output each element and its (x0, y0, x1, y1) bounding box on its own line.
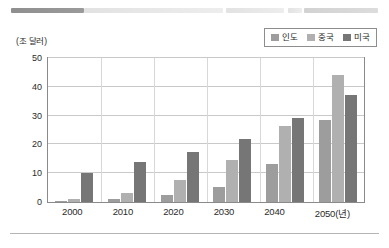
redacted-text-segment (288, 8, 302, 13)
redacted-text-segment (304, 8, 378, 13)
bar-group-2050 (319, 58, 357, 202)
bar-미국-2050 (345, 95, 357, 202)
category-separator (207, 58, 208, 202)
legend-swatch-china (307, 34, 315, 41)
legend-swatch-india (271, 34, 279, 41)
bar-인도-2010 (108, 199, 120, 202)
bar-인도-2050 (319, 120, 331, 202)
y-axis-unit-label: (조 달러) (16, 34, 47, 46)
y-axis-tick-40: 40 (8, 82, 42, 92)
chart-legend: 인도 중국 미국 (264, 28, 377, 47)
bar-group-2030 (213, 58, 251, 202)
x-axis-tick-labels: 200020102020203020402050(년) (47, 206, 365, 220)
footer-divider (10, 233, 379, 234)
bar-중국-2000 (68, 199, 80, 202)
bar-인도-2000 (55, 201, 67, 202)
legend-item-china: 중국 (307, 33, 334, 42)
bar-인도-2020 (161, 195, 173, 202)
bar-group-2000 (55, 58, 93, 202)
category-separator (101, 58, 102, 202)
bar-인도-2040 (266, 164, 278, 202)
bar-group-2010 (108, 58, 146, 202)
chart-plot-container: (조 달러) 인도 중국 미국 01020304050 200020102020… (0, 22, 389, 227)
x-axis-tick-2050(년): 2050(년) (315, 206, 350, 220)
bar-미국-2010 (134, 162, 146, 202)
category-separator (313, 58, 314, 202)
y-axis-tick-labels: 01020304050 (4, 57, 42, 203)
legend-item-usa: 미국 (343, 33, 370, 42)
redacted-text-segment (84, 8, 223, 13)
y-axis-tick-50: 50 (8, 53, 42, 63)
bar-중국-2030 (226, 160, 238, 202)
y-axis-tick-20: 20 (8, 139, 42, 149)
plot-area (47, 57, 365, 203)
redacted-text-segment (226, 8, 284, 13)
y-axis-tick-30: 30 (8, 111, 42, 121)
redacted-text-segment (11, 8, 84, 13)
bar-group-2020 (161, 58, 199, 202)
x-axis-tick-2000: 2000 (62, 206, 82, 220)
category-separator (260, 58, 261, 202)
bar-미국-2020 (187, 152, 199, 202)
bar-중국-2050 (332, 75, 344, 202)
legend-label-china: 중국 (318, 33, 334, 42)
bar-인도-2030 (213, 187, 225, 202)
x-axis-tick-2040: 2040 (264, 206, 284, 220)
bar-중국-2020 (174, 180, 186, 202)
y-axis-tick-10: 10 (8, 168, 42, 178)
bar-미국-2000 (81, 173, 93, 202)
scan-artifact-strip (0, 0, 389, 22)
x-axis-tick-2020: 2020 (163, 206, 183, 220)
chart-figure: (조 달러) 인도 중국 미국 01020304050 200020102020… (0, 22, 389, 227)
category-separator (154, 58, 155, 202)
legend-label-india: 인도 (282, 33, 298, 42)
bar-중국-2040 (279, 126, 291, 202)
bar-미국-2030 (239, 139, 251, 202)
legend-item-india: 인도 (271, 33, 298, 42)
x-axis-tick-2010: 2010 (113, 206, 133, 220)
bar-미국-2040 (292, 118, 304, 202)
legend-swatch-usa (343, 34, 351, 41)
bar-group-2040 (266, 58, 304, 202)
x-axis-tick-2030: 2030 (214, 206, 234, 220)
y-axis-tick-0: 0 (8, 197, 42, 207)
legend-label-usa: 미국 (354, 33, 370, 42)
bar-groups (48, 58, 364, 202)
bar-중국-2010 (121, 193, 133, 202)
